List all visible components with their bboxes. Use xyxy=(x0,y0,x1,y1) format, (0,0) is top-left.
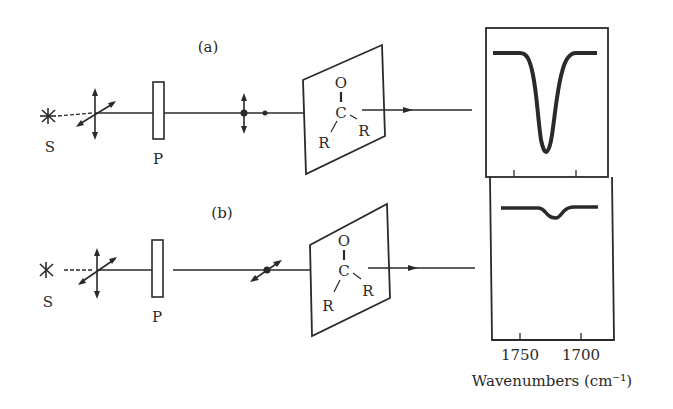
source-label: S xyxy=(45,138,55,156)
polarizer-a xyxy=(153,82,164,139)
svg-text:R: R xyxy=(322,297,334,315)
polarizer-label: P xyxy=(152,308,162,326)
absorption-curve-weak xyxy=(501,207,598,218)
svg-text:O: O xyxy=(335,74,347,92)
absorption-curve-strong xyxy=(493,53,597,152)
sample-plate-b xyxy=(310,204,390,336)
polarized-ir-diagram: (a) S P xyxy=(0,0,673,409)
panel-b: (b) S P O xyxy=(40,204,475,336)
panel-b-label: (b) xyxy=(211,204,232,222)
light-source-icon xyxy=(40,108,56,124)
svg-text:R: R xyxy=(362,282,374,300)
svg-text:O: O xyxy=(338,232,350,250)
horizontal-polarization-icon xyxy=(250,260,282,282)
carbonyl-molecule-a: O C R R xyxy=(318,74,370,152)
spectrum-box-a xyxy=(486,28,608,177)
svg-text:R: R xyxy=(358,122,370,140)
source-label: S xyxy=(43,293,53,311)
panel-a: (a) S P xyxy=(40,38,472,174)
carbonyl-molecule-b: O C R R xyxy=(322,232,374,315)
light-source-icon xyxy=(40,262,53,278)
x-tick-1700: 1700 xyxy=(562,346,600,364)
x-tick-1750: 1750 xyxy=(501,346,539,364)
x-axis-label: Wavenumbers (cm⁻¹) xyxy=(472,372,632,390)
svg-text:C: C xyxy=(338,262,349,280)
spectrum-box-b xyxy=(490,177,614,340)
ir-spectrum: 1750 1700 Wavenumbers (cm⁻¹) xyxy=(472,28,632,390)
unpolarized-light-icon xyxy=(78,248,117,299)
panel-a-label: (a) xyxy=(198,38,219,56)
svg-text:R: R xyxy=(318,134,330,152)
svg-text:C: C xyxy=(335,104,346,122)
polarizer-b xyxy=(152,240,163,297)
polarizer-label: P xyxy=(153,150,163,168)
